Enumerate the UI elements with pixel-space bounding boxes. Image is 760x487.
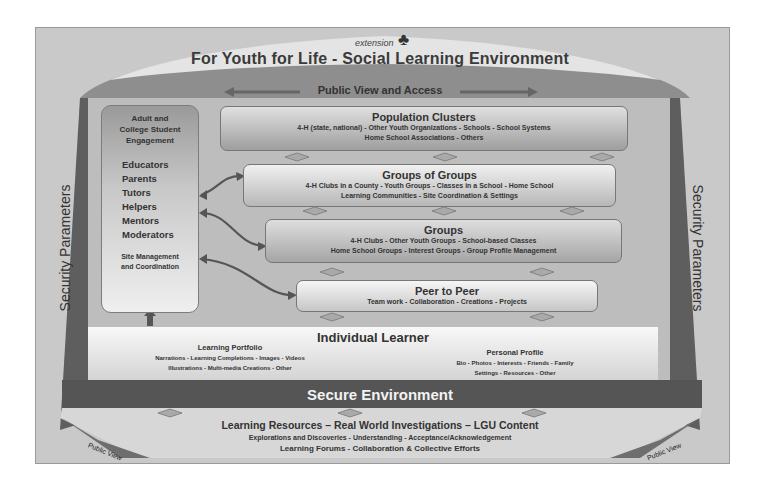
learning-portfolio: Learning Portfolio Narrations - Learning… — [120, 343, 340, 373]
extension-logo-icon: extension — [355, 38, 394, 48]
population-clusters-box: Population Clusters 4-H (state, national… — [220, 106, 628, 151]
role-item: Moderators — [122, 228, 198, 242]
clover-4h-icon: ♣ — [398, 30, 409, 50]
role-item: Parents — [122, 172, 198, 186]
adult-engagement-panel: Adult and College Student Engagement Edu… — [101, 105, 199, 313]
role-item: Educators — [122, 158, 198, 172]
role-item: Helpers — [122, 200, 198, 214]
security-parameters-left: Security Parameters — [57, 148, 73, 348]
public-access-label: Public View and Access — [300, 84, 460, 96]
security-parameters-right: Security Parameters — [690, 148, 706, 348]
secure-environment-label: Secure Environment — [60, 386, 700, 403]
personal-profile: Personal Profile Bio - Photos - Interest… — [400, 348, 630, 378]
peer-to-peer-box: Peer to Peer Team work - Collaboration -… — [296, 280, 598, 312]
diagram-title: For Youth for Life - Social Learning Env… — [0, 50, 760, 68]
learning-resources: Learning Resources – Real World Investig… — [100, 418, 660, 455]
groups-box: Groups 4-H Clubs - Other Youth Groups - … — [265, 219, 622, 263]
groups-of-groups-box: Groups of Groups 4-H Clubs in a County -… — [243, 164, 616, 207]
site-management-label: Site Management and Coordination — [102, 252, 198, 272]
adult-panel-heading: Adult and College Student Engagement — [102, 113, 198, 146]
role-item: Mentors — [122, 214, 198, 228]
role-item: Tutors — [122, 186, 198, 200]
role-list: Educators Parents Tutors Helpers Mentors… — [102, 158, 198, 242]
